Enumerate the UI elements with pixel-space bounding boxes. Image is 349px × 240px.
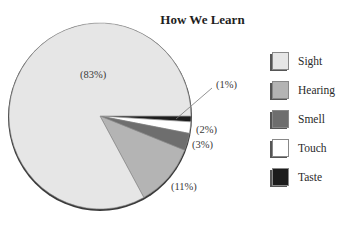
legend-item-taste: Taste	[270, 162, 335, 191]
legend-item-touch: Touch	[270, 133, 335, 162]
legend-label-smell: Smell	[298, 113, 325, 125]
legend-item-hearing: Hearing	[270, 75, 335, 104]
legend-swatch-touch	[270, 139, 288, 157]
legend-label-hearing: Hearing	[298, 84, 335, 96]
legend-label-touch: Touch	[298, 142, 327, 154]
label-sight: (83%)	[80, 69, 106, 80]
legend-swatch-hearing	[270, 81, 288, 99]
legend-label-taste: Taste	[298, 171, 322, 183]
legend-swatch-taste	[270, 168, 288, 186]
legend-swatch-smell	[270, 110, 288, 128]
label-touch: (2%)	[196, 124, 217, 135]
pie-slices	[9, 23, 191, 209]
label-taste: (1%)	[216, 79, 237, 90]
label-smell: (3%)	[192, 139, 213, 150]
legend-label-sight: Sight	[298, 55, 322, 67]
legend-item-sight: Sight	[270, 46, 335, 75]
legend: Sight Hearing Smell Touch Taste	[270, 46, 335, 191]
label-hearing: (11%)	[171, 181, 197, 192]
legend-swatch-sight	[270, 52, 288, 70]
legend-item-smell: Smell	[270, 104, 335, 133]
